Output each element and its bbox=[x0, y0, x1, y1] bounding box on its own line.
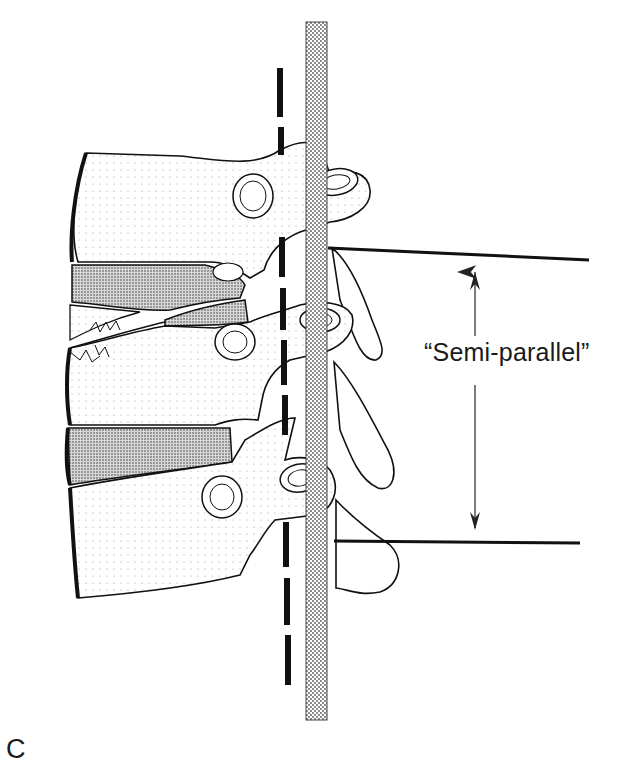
panel-letter: C bbox=[6, 734, 26, 765]
double-headed-vertical-arrow bbox=[470, 272, 480, 530]
stippled-rod bbox=[306, 22, 327, 720]
upper-horizontal-line bbox=[328, 248, 589, 260]
lower-horizontal-line bbox=[334, 541, 580, 543]
semi-parallel-label: “Semi-parallel” bbox=[424, 336, 590, 369]
spine-lateral-diagram bbox=[0, 0, 624, 778]
